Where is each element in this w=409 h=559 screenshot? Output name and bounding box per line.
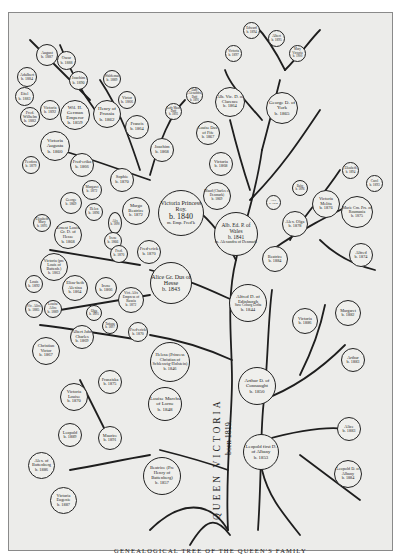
person-node-victoria-augusta: Victoria Augustab. 1860 (40, 131, 70, 161)
person-node-henry: Henry of Prussiab. 1862 (93, 100, 121, 128)
birth-year: b. 1870 (67, 399, 81, 404)
birth-year: b. 1848 (158, 407, 173, 412)
person-node-victoria-york: Victoriab. 1897 (225, 45, 242, 62)
birth-year: b. 1895 (89, 313, 99, 316)
person-node-lady-alexandra: Lady Alexandra Duffb. 1891 (186, 87, 203, 104)
person-name: Arthur D. of Connaught (239, 378, 275, 389)
birth-year: b. 1882 (342, 313, 355, 318)
birth-year: b. 1879 (26, 165, 37, 169)
person-node-sophie: Sophieb. 1870 (110, 168, 134, 192)
birth-year: b. 1865 (275, 111, 290, 116)
birth-year: b. 1869 (76, 339, 89, 344)
person-node-august: Augustb. 1887 (36, 44, 58, 66)
person-node-frederick: Fred-erickb. 1870 (137, 240, 161, 264)
person-name: Helena (Princess Christian of Schleswig-… (151, 353, 189, 367)
birth-year: b. 1870 (142, 252, 155, 257)
birth-year: b. 1864 (130, 127, 144, 132)
person-node-alex-battenberg: Alex. of Battenbergb. 1886 (28, 452, 55, 479)
person-node-alice: Alice Gr. Dus of Hesseb. 1843 (150, 262, 192, 304)
birth-year: b. 1889 (48, 311, 59, 315)
person-node-leopold-albany: Leopold D. of Albanyb. 1884 (334, 460, 362, 488)
birth-year: b. 1872 (87, 190, 98, 194)
birth-year: b. 1843 (162, 286, 180, 292)
person-node-alex-small: Alex.b. 1874 (266, 195, 281, 210)
birth-year: b. 1900 (293, 55, 303, 58)
birth-year: b. 1884 (21, 77, 33, 81)
person-node-helena: Helena (Princess Christian of Schleswig-… (150, 342, 190, 382)
birth-year: b. 1869 (212, 198, 223, 202)
birth-year: b. 1893 (369, 184, 379, 188)
birth-year: b. 1892 (28, 284, 39, 288)
birth-year: b. 1866 (100, 288, 113, 293)
person-node-frederika: Fred-erikab. 1866 (70, 153, 94, 177)
birth-year: b. 1862 (100, 117, 115, 122)
trunk-left-edge (227, 150, 262, 530)
birth-year: b. 1895 (37, 225, 47, 229)
person-name: George D. of York (267, 100, 297, 111)
birth-year: b. 1859 (68, 120, 83, 125)
birth-year: b. 1870 (114, 254, 125, 258)
person-node-victoria-eugenie: Victoria Eugenieb. 1887 (50, 487, 77, 514)
person-node-olga: Olgab. 1895 (86, 305, 102, 321)
person-node-louise: Louise Marchs of Lorneb. 1848 (148, 387, 182, 421)
person-node-irene: Ireneb. 1866 (95, 277, 117, 299)
birth-year: b. 1874 (355, 255, 368, 260)
person-node-mary-victoria: Mary Victoriab. 1900 (289, 45, 306, 62)
person-node-baby: Babyb. 1896 (292, 180, 308, 196)
person-node-alix: Vict. Alix Empress of Russiab. 1872 (118, 287, 144, 313)
person-name: Beatrice (Pre Henry of Battenberg) (144, 466, 180, 480)
trunk-title: QUEEN VICTORIA (212, 398, 222, 520)
person-node-joachim-small: Joachimb. 1890 (69, 71, 88, 90)
person-node-leopold-b: Leopoldb. 1889 (58, 423, 82, 447)
birth-year: b. 1844 (241, 307, 255, 312)
trunk-subtitle: born 1819. (224, 420, 233, 455)
person-node-vic-alice: Vic. Aliceb. 1885 (25, 300, 43, 318)
birth-year: b. 1866 (121, 100, 133, 104)
person-node-beatrice: Beatrice (Pre Henry of Battenberg)b. 185… (143, 457, 181, 495)
birth-year: b. 1896 (89, 212, 100, 216)
birth-year: b. 1888 (61, 61, 73, 65)
person-node-edward: Edwardb. 1894 (243, 22, 260, 39)
birth-year: b. 1884 (342, 476, 355, 480)
birth-year: b. 1867 (202, 135, 215, 139)
person-node-victoria-wales: Victoriab. 1868 (209, 152, 233, 176)
birth-year: b. 1893 (169, 113, 178, 116)
birth-year: b. 1868 (61, 240, 74, 245)
person-node-victoria-louise: Victoria Louiseb. 1870 (60, 383, 88, 411)
person-node-george: George D. of Yorkb. 1865 (266, 92, 298, 124)
person-node-victoria-princess-royal: Victoria Princess Roy.b. 1840m. Emp. Fre… (158, 190, 204, 236)
person-node-victoria-melita: Victoria Melitab. 1876 (312, 190, 340, 218)
birth-year: b. 1890 (73, 81, 85, 85)
person-node-tatiana: Tatianab. 1897 (102, 318, 118, 334)
person-node-louise-alice: Louise Aliceb. 1889 (44, 300, 62, 318)
person-node-victor: Victorb. 1866 (118, 91, 136, 109)
person-node-maud: Maud (Charles of Denmark)b. 1869 (203, 182, 231, 210)
birth-year: b. 1894 (346, 171, 356, 174)
person-node-maurice: Mauriceb. 1891 (98, 426, 122, 450)
person-node-arthur-small: Arthurb. 1883 (341, 348, 365, 372)
person-name: Wil. II. German Emperor (61, 105, 89, 121)
birth-year: b. 1874 (269, 203, 277, 206)
person-node-feodora: Feodorab. 1879 (22, 156, 40, 174)
birth-year: b. 1872 (126, 304, 137, 308)
person-node-alfred-small: Alfredb. 1874 (349, 243, 373, 267)
birth-year: b. 1889 (64, 435, 77, 440)
marriage-note: m. Emp. Fred'k (167, 221, 195, 226)
birth-year: b. 1887 (57, 503, 70, 508)
person-node-fred-wilhelm: Fred. Wilhelmb. 1882 (20, 107, 40, 127)
person-name: Victoria Augusta (41, 138, 69, 149)
person-node-victoria-battenberg: Victoria (pre Louis of Battenb.)b. 1863 (40, 253, 68, 281)
birth-year: b. 1894 (246, 31, 256, 35)
person-node-marie: Marie Crn. Prs. of Roumaniab. 1875 (341, 196, 373, 228)
person-node-elizabeth-mary: Elizabeth Maryb. 1895 (33, 214, 51, 232)
birth-year: b. 1896 (296, 188, 305, 191)
person-node-oscar: Oscarb. 1888 (57, 51, 76, 70)
birth-year: b. 1882 (24, 119, 36, 123)
person-node-louis: Louisb. 1892 (25, 275, 43, 293)
birth-year: b. 1853 (254, 455, 268, 460)
birth-year: b. 1867 (39, 353, 53, 358)
person-node-alb-vic: Alb. Vic. D. of Clarenceb. 1864 (215, 87, 245, 117)
person-node-wilhelm: Wil. II. German Emperorb. 1859 (60, 100, 90, 130)
birth-year: b. 1895 (271, 39, 281, 43)
person-node-joachim: Joachimb. 1868 (150, 138, 174, 162)
